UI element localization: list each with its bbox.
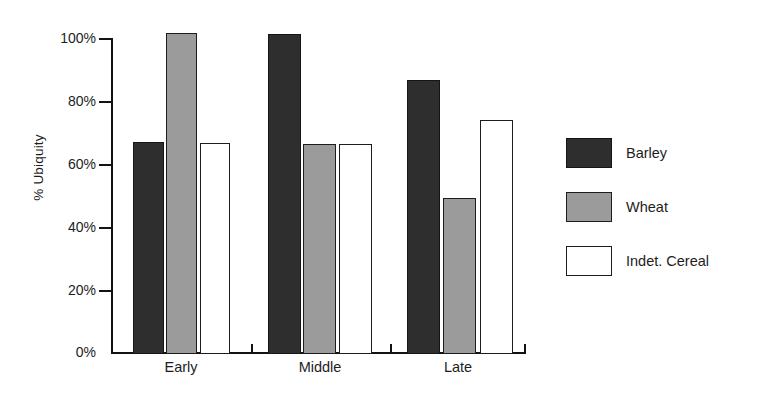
x-tick-separator-1 <box>251 344 253 353</box>
bar-late-barley <box>407 80 440 354</box>
y-tick-label-100-wrap: 100% <box>16 30 96 48</box>
y-tick-label-80-wrap: 80% <box>16 93 96 111</box>
legend-item-wheat: Wheat <box>566 188 709 226</box>
y-tick-80 <box>99 101 112 103</box>
bar-early-wheat <box>166 33 197 354</box>
y-tick-label-20-wrap: 20% <box>16 282 96 300</box>
y-tick-label-0: 0% <box>24 344 96 360</box>
y-tick-label-0-wrap: 0% <box>16 344 96 362</box>
y-tick-label-60: 60% <box>24 156 96 172</box>
y-tick-label-80: 80% <box>24 93 96 109</box>
legend-swatch-barley-icon <box>566 138 612 168</box>
legend-label-wheat: Wheat <box>626 199 668 215</box>
legend-swatch-wheat-icon <box>566 192 612 222</box>
legend-label-indet-cereal: Indet. Cereal <box>626 253 709 269</box>
x-group-label-late: Late <box>398 359 518 375</box>
bar-late-wheat <box>443 198 476 354</box>
legend-swatch-indet-cereal-icon <box>566 246 612 276</box>
y-tick-label-40: 40% <box>24 219 96 235</box>
legend-label-barley: Barley <box>626 145 667 161</box>
legend-item-indet-cereal: Indet. Cereal <box>566 242 709 280</box>
bar-middle-wheat <box>303 144 336 354</box>
x-tick-separator-3 <box>524 344 526 353</box>
legend: Barley Wheat Indet. Cereal <box>566 134 709 296</box>
bar-early-barley <box>133 142 164 354</box>
y-tick-100 <box>99 38 112 40</box>
bar-middle-barley <box>268 34 301 354</box>
legend-item-barley: Barley <box>566 134 709 172</box>
y-tick-label-60-wrap: 60% <box>16 156 96 174</box>
x-tick-separator-2 <box>390 344 392 353</box>
y-tick-label-40-wrap: 40% <box>16 219 96 237</box>
y-tick-40 <box>99 227 112 229</box>
bar-late-indet-cereal <box>480 120 513 354</box>
y-tick-label-100: 100% <box>24 30 96 46</box>
y-axis-line <box>111 38 113 354</box>
bar-chart: % Ubiquity 100% 80% 60% 40% 20% 0% Early… <box>0 0 762 407</box>
y-tick-label-20: 20% <box>24 282 96 298</box>
bar-middle-indet-cereal <box>339 144 372 354</box>
bar-early-indet-cereal <box>200 143 230 354</box>
y-tick-20 <box>99 290 112 292</box>
x-group-label-middle: Middle <box>260 359 380 375</box>
y-tick-60 <box>99 164 112 166</box>
x-group-label-early: Early <box>121 359 241 375</box>
